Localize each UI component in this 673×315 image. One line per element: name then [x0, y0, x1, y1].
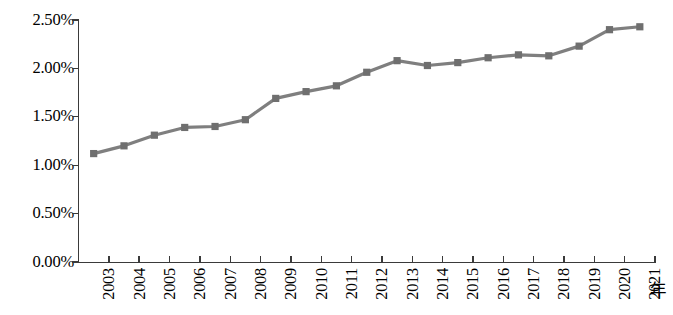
data-point-marker — [393, 57, 400, 64]
y-axis-tick — [72, 19, 79, 20]
x-axis-tick-label: 2003 — [101, 268, 118, 300]
x-axis-tick-label: 2010 — [314, 268, 331, 300]
data-point-marker — [333, 82, 340, 89]
x-axis-tick-label: 2007 — [223, 268, 240, 300]
x-axis-tick-label: 2015 — [465, 268, 482, 300]
y-axis-line — [78, 19, 79, 263]
x-axis-tick-label: 2013 — [405, 268, 422, 300]
x-axis-line — [78, 262, 655, 263]
x-axis-tick — [594, 256, 595, 263]
chart-container: 0.00%0.50%1.00%1.50%2.00%2.50% 200320042… — [0, 0, 673, 315]
y-axis-tick-label: 1.00% — [2, 157, 74, 174]
x-axis-tick — [321, 256, 322, 263]
x-axis-tick-label: 2016 — [496, 268, 513, 300]
x-axis-tick — [381, 256, 382, 263]
data-point-marker — [211, 123, 218, 130]
data-point-marker — [120, 142, 127, 149]
data-point-marker — [90, 150, 97, 157]
x-axis-tick-label: 2020 — [617, 268, 634, 300]
x-axis-tick — [199, 256, 200, 263]
y-axis-tick — [72, 68, 79, 69]
x-axis-tick — [472, 256, 473, 263]
data-point-marker — [363, 69, 370, 76]
x-axis-tick — [351, 256, 352, 263]
x-axis-tick — [290, 256, 291, 263]
y-axis-tick — [72, 116, 79, 117]
x-axis-tick — [654, 256, 655, 263]
series-markers — [90, 23, 643, 157]
data-point-marker — [545, 52, 552, 59]
x-axis-tick-label: 2012 — [374, 268, 391, 300]
x-axis-tick-label: 2006 — [192, 268, 209, 300]
x-axis-tick — [624, 256, 625, 263]
data-point-marker — [606, 26, 613, 33]
x-axis-tick-label: 2004 — [132, 268, 149, 300]
x-axis-tick — [108, 256, 109, 263]
y-axis-labels: 0.00%0.50%1.00%1.50%2.00%2.50% — [0, 0, 74, 315]
x-axis-tick-label: 2008 — [253, 268, 270, 300]
x-axis-tick — [260, 256, 261, 263]
y-axis-tick-label: 1.50% — [2, 108, 74, 125]
series-polyline — [94, 27, 640, 154]
data-point-marker — [272, 95, 279, 102]
y-axis-tick — [72, 165, 79, 166]
data-point-marker — [454, 59, 461, 66]
y-axis-tick-label: 0.50% — [2, 205, 74, 222]
x-axis-tick-label: 2017 — [526, 268, 543, 300]
x-axis-tick — [533, 256, 534, 263]
data-point-marker — [242, 116, 249, 123]
x-axis-tick-label: 2005 — [162, 268, 179, 300]
y-axis-tick-label: 2.50% — [2, 12, 74, 29]
x-axis-tick — [78, 256, 79, 263]
x-axis-tick — [503, 256, 504, 263]
data-point-marker — [181, 124, 188, 131]
data-point-marker — [302, 88, 309, 95]
x-axis-tick — [230, 256, 231, 263]
x-axis-tick — [442, 256, 443, 263]
data-point-marker — [485, 54, 492, 61]
x-axis-tick-label: 2018 — [556, 268, 573, 300]
x-axis-unit-label: 年 — [650, 283, 667, 300]
x-axis-tick-label: 2014 — [435, 268, 452, 300]
x-axis-tick — [138, 256, 139, 263]
x-axis-tick — [412, 256, 413, 263]
x-axis-tick — [169, 256, 170, 263]
x-axis-tick — [563, 256, 564, 263]
data-point-marker — [515, 51, 522, 58]
y-axis-tick-label: 2.00% — [2, 60, 74, 77]
data-point-marker — [636, 23, 643, 30]
x-axis-tick-label: 2011 — [344, 268, 361, 299]
data-point-marker — [576, 43, 583, 50]
data-point-marker — [151, 132, 158, 139]
y-axis-tick-label: 0.00% — [2, 254, 74, 271]
x-axis-tick-label: 2019 — [587, 268, 604, 300]
x-axis-tick-label: 2009 — [283, 268, 300, 300]
y-axis-tick — [72, 213, 79, 214]
data-point-marker — [424, 62, 431, 69]
